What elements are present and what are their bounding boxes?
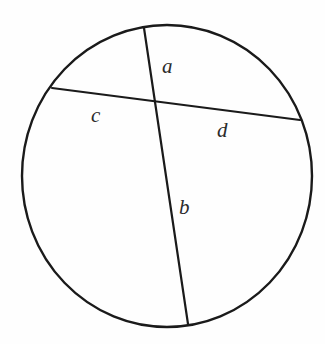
- chord-cd: [52, 88, 300, 120]
- segment-label-a: a: [162, 56, 173, 77]
- segment-label-d: d: [217, 120, 228, 141]
- geometry-figure: a b c d: [0, 0, 325, 344]
- segment-label-b: b: [179, 197, 190, 218]
- segment-label-c: c: [91, 105, 100, 126]
- circle-chords-drawing: [0, 0, 325, 344]
